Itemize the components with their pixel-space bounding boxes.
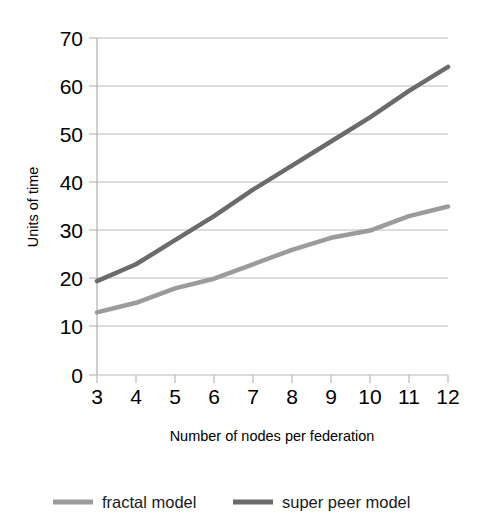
legend-label-fractal: fractal model [102,493,196,511]
y-tick-label-30: 30 [60,219,83,242]
x-tick-label-5: 5 [169,385,181,408]
x-tick-label-9: 9 [325,385,337,408]
series-line-fractal-model [97,207,448,313]
y-tick-labels-group: 70 60 50 40 30 20 10 0 [60,27,83,387]
series-line-super-peer-model [97,67,448,281]
x-tick-label-6: 6 [208,385,220,408]
x-tick-label-12: 12 [436,385,459,408]
y-tick-label-50: 50 [60,123,83,146]
gridlines-group [97,38,448,375]
x-tick-label-7: 7 [247,385,259,408]
legend: fractal model super peer model [53,493,410,511]
x-axis-title: Number of nodes per federation [170,428,375,444]
legend-label-super-peer: super peer model [282,493,410,511]
x-tick-marks-group [97,375,448,383]
series-group [97,67,448,313]
x-tick-label-4: 4 [130,385,142,408]
y-axis-title: Units of time [25,167,41,248]
figure-container: 70 60 50 40 30 20 10 0 Units of time 3 [0,0,484,532]
y-tick-label-20: 20 [60,267,83,290]
y-tick-label-60: 60 [60,75,83,98]
y-tick-label-0: 0 [71,364,83,387]
line-chart: 70 60 50 40 30 20 10 0 Units of time 3 [0,0,484,532]
y-tick-label-70: 70 [60,27,83,50]
x-tick-labels-group: 3 4 5 6 7 8 9 10 11 12 [91,385,460,408]
y-tick-label-10: 10 [60,315,83,338]
x-tick-label-11: 11 [398,385,420,408]
y-tick-marks-group [89,38,97,375]
x-tick-label-8: 8 [286,385,298,408]
x-tick-label-3: 3 [91,385,103,408]
x-tick-label-10: 10 [358,385,381,408]
y-tick-label-40: 40 [60,171,83,194]
